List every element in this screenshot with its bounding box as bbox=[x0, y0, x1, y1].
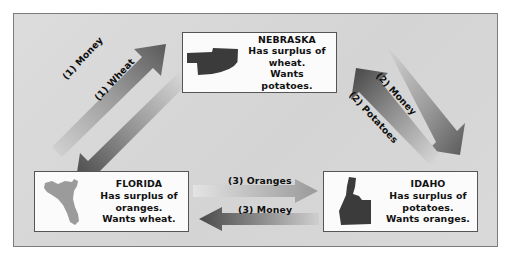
idaho-line-1: Has surplus of bbox=[384, 190, 472, 202]
nebraska-line-1: Has surplus of bbox=[243, 45, 331, 57]
nebraska-title: NEBRASKA bbox=[243, 34, 331, 46]
node-idaho: IDAHO Has surplus of potatoes. Wants ora… bbox=[323, 171, 478, 232]
idaho-line-3: Wants oranges. bbox=[384, 213, 472, 225]
node-nebraska: NEBRASKA Has surplus of wheat. Wants pot… bbox=[182, 32, 337, 93]
florida-line-3: Wants wheat. bbox=[95, 213, 183, 225]
florida-line-1: Has surplus of bbox=[95, 190, 183, 202]
flow-label-oranges3: (3) Oranges bbox=[228, 175, 292, 186]
idaho-line-2: potatoes. bbox=[384, 202, 472, 214]
florida-state-shape bbox=[35, 177, 95, 227]
nebraska-text: NEBRASKA Has surplus of wheat. Wants pot… bbox=[243, 34, 336, 92]
flow-label-money3: (3) Money bbox=[238, 204, 292, 215]
nebraska-state-shape bbox=[183, 46, 243, 80]
nebraska-line-2: wheat. bbox=[243, 57, 331, 69]
florida-line-2: oranges. bbox=[95, 202, 183, 214]
idaho-state-shape bbox=[324, 176, 384, 228]
node-florida: FLORIDA Has surplus of oranges. Wants wh… bbox=[34, 171, 189, 232]
idaho-title: IDAHO bbox=[384, 178, 472, 190]
florida-title: FLORIDA bbox=[95, 178, 183, 190]
idaho-text: IDAHO Has surplus of potatoes. Wants ora… bbox=[384, 178, 477, 224]
florida-text: FLORIDA Has surplus of oranges. Wants wh… bbox=[95, 178, 188, 224]
diagram-canvas: (1) Money (1) Wheat (2) Money (2) Potato… bbox=[0, 0, 513, 263]
nebraska-line-3: Wants potatoes. bbox=[243, 68, 331, 91]
